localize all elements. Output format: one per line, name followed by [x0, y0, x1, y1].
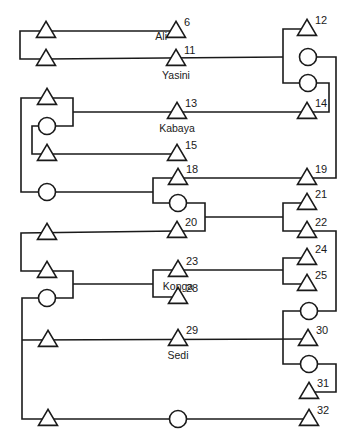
person-number: 12 — [315, 14, 327, 26]
male-triangle-icon — [298, 19, 317, 35]
person-number: 28 — [186, 282, 198, 294]
male-triangle-icon — [298, 102, 317, 118]
male-triangle-icon — [38, 261, 57, 277]
person-number: 19 — [315, 163, 327, 175]
kinship-diagram: 6Ali11Yasini1213Kabaya1415181920212223Ko… — [0, 0, 354, 447]
person-number: 32 — [317, 404, 329, 416]
female-circle-icon — [301, 356, 318, 373]
female-circle-icon — [300, 49, 317, 66]
person-name: Sedi — [167, 349, 188, 361]
male-triangle-icon — [37, 49, 56, 65]
person-number: 14 — [315, 97, 327, 109]
female-circle-icon — [170, 195, 187, 212]
person-number: 11 — [184, 44, 195, 56]
person-number: 21 — [315, 188, 327, 200]
person-number: 6 — [184, 16, 190, 28]
male-triangle-icon — [300, 409, 319, 425]
person-name: Yasini — [162, 69, 190, 81]
male-triangle-icon — [300, 382, 319, 398]
person-number: 13 — [185, 97, 197, 109]
female-circle-icon — [39, 184, 56, 201]
male-triangle-icon — [37, 21, 56, 37]
male-triangle-icon — [168, 221, 187, 237]
person-number: 23 — [186, 255, 198, 267]
male-triangle-icon — [298, 168, 317, 184]
male-triangle-icon — [169, 168, 188, 184]
male-triangle-icon — [169, 260, 188, 276]
female-circle-icon — [301, 303, 318, 320]
kin-line — [22, 298, 48, 419]
person-name: Kabaya — [159, 122, 195, 134]
male-triangle-icon — [298, 193, 317, 209]
female-circle-icon — [300, 75, 317, 92]
person-number: 24 — [315, 243, 327, 255]
person-number: 25 — [315, 269, 327, 281]
kin-labels: 6Ali11Yasini1213Kabaya1415181920212223Ko… — [155, 14, 329, 416]
male-triangle-icon — [169, 329, 188, 345]
person-number: 22 — [315, 216, 327, 228]
kin-line — [46, 57, 283, 59]
kin-line — [22, 339, 308, 340]
male-triangle-icon — [167, 21, 186, 37]
male-triangle-icon — [168, 102, 187, 118]
male-triangle-icon — [38, 88, 57, 104]
male-triangle-icon — [38, 223, 57, 239]
female-circle-icon — [170, 411, 187, 428]
person-number: 31 — [317, 377, 329, 389]
female-circle-icon — [39, 290, 56, 307]
male-triangle-icon — [39, 330, 58, 346]
male-triangle-icon — [39, 409, 58, 425]
person-number: 15 — [185, 139, 197, 151]
male-triangle-icon — [38, 144, 57, 160]
person-name: Ali — [155, 30, 167, 42]
female-circle-icon — [39, 118, 56, 135]
male-triangle-icon — [298, 274, 317, 290]
person-number: 20 — [185, 216, 197, 228]
kin-line — [21, 98, 47, 192]
person-number: 30 — [316, 324, 328, 336]
male-triangle-icon — [298, 248, 317, 264]
male-triangle-icon — [168, 144, 187, 160]
male-triangle-icon — [299, 329, 318, 345]
person-number: 29 — [186, 324, 198, 336]
male-triangle-icon — [298, 221, 317, 237]
person-number: 18 — [186, 163, 198, 175]
